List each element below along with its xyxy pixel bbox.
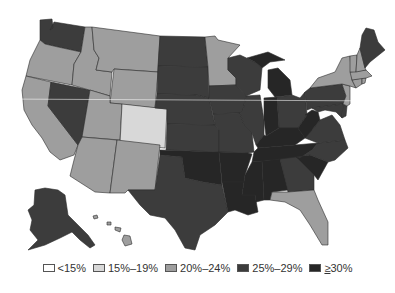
legend-label: 15%–19% [108, 262, 158, 274]
legend-item-25-29: 25%–29% [237, 262, 302, 274]
state-RI [362, 78, 366, 84]
state-SD [157, 66, 209, 98]
legend-item-15-19: 15%–19% [93, 262, 158, 274]
legend-swatch-ge30 [309, 264, 321, 272]
legend-swatch-15-19 [93, 264, 105, 272]
legend-label: <15% [58, 262, 86, 274]
state-MT [92, 27, 160, 72]
legend-swatch-lt15 [43, 264, 55, 272]
legend-item-ge30: ≥30% [309, 262, 352, 274]
state-NM [110, 140, 160, 193]
us-choropleth-map [0, 0, 395, 260]
state-ME [360, 28, 385, 68]
state-FL [270, 190, 328, 245]
legend-label: ≥30% [324, 262, 352, 274]
legend: <15% 15%–19% 20%–24% 25%–29% ≥30% [0, 258, 395, 278]
legend-label: 25%–29% [252, 262, 302, 274]
state-AK [28, 188, 95, 250]
legend-swatch-20-24 [165, 264, 177, 272]
state-HI [93, 215, 132, 246]
legend-swatch-25-29 [237, 264, 249, 272]
state-WY [110, 69, 158, 108]
legend-item-20-24: 20%–24% [165, 262, 230, 274]
state-KS [166, 124, 219, 152]
state-ND [158, 36, 208, 67]
state-DE [342, 104, 347, 118]
state-NY [310, 56, 356, 88]
legend-item-lt15: <15% [43, 262, 86, 274]
legend-label: 20%–24% [180, 262, 230, 274]
